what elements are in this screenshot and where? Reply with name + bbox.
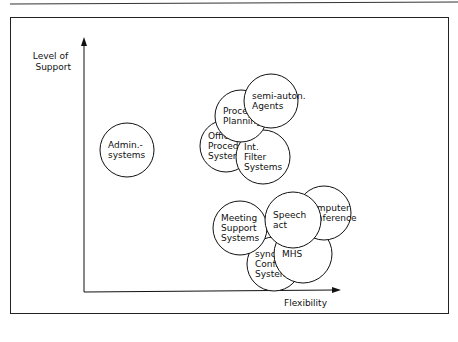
- node-label: Admin.-systems: [108, 140, 146, 160]
- node-label: MHS: [282, 249, 303, 259]
- x-axis: [84, 290, 335, 292]
- node-meeting-support-systems: MeetingSupportSystems: [213, 201, 267, 255]
- node-admin-systems: Admin.-systems: [100, 123, 154, 177]
- node-semi-auton-agents: semi-auton.Agents: [244, 74, 306, 128]
- top-rule: [10, 2, 458, 4]
- node-group: Admin.-systemsOfficeProcedureSystemsInt.…: [100, 74, 357, 291]
- node-speech-act: Speechact: [265, 192, 321, 248]
- node-label: MeetingSupportSystems: [221, 213, 260, 243]
- x-axis-arrow-icon: [332, 287, 341, 293]
- y-axis-arrow-icon: [81, 37, 87, 46]
- diagram-canvas: Level of Support Flexibility Admin.-syst…: [0, 0, 458, 342]
- y-axis-label: Level of Support: [33, 51, 72, 72]
- x-axis-label: Flexibility: [284, 298, 328, 308]
